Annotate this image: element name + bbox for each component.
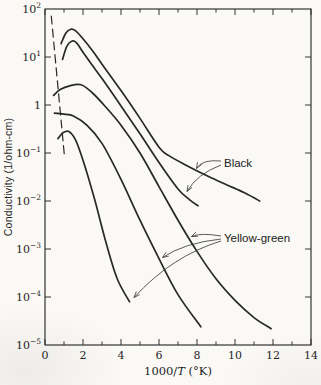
curve-yellow-green-steep <box>58 131 130 302</box>
x-tick-label: 2 <box>80 349 87 362</box>
x-tick-label: 10 <box>228 349 242 362</box>
x-tick-label: 6 <box>156 349 163 362</box>
data-curves <box>51 16 271 329</box>
x-tick-label: 8 <box>194 349 201 362</box>
scanned-figure-page: 02468101214102101110−110−210−310−410−510… <box>0 0 321 385</box>
annotation-black: Black <box>187 157 252 192</box>
curve-black-upper <box>61 29 260 201</box>
x-axis-tick-labels: 02468101214 <box>42 349 319 362</box>
curve-black-lower <box>63 41 199 206</box>
y-tick-label: 10−5 <box>16 337 41 352</box>
x-tick-label: 0 <box>42 349 49 362</box>
y-axis-tick-labels: 102101110−110−210−310−410−5 <box>16 1 41 352</box>
y-tick-label: 1 <box>34 99 41 112</box>
y-tick-label: 10−4 <box>16 289 41 304</box>
x-tick-label: 12 <box>266 349 280 362</box>
y-tick-label: 10−2 <box>16 193 41 208</box>
x-tick-label: 14 <box>304 349 318 362</box>
y-tick-label: 10−1 <box>16 145 41 160</box>
x-axis-title: 1000/T (°K) <box>144 364 212 378</box>
curve-dashed-reference <box>51 16 64 158</box>
y-tick-label: 10−3 <box>16 241 41 256</box>
y-tick-label: 102 <box>22 1 41 16</box>
curve-yellow-green-upper <box>54 84 272 328</box>
x-tick-label: 4 <box>118 349 125 362</box>
y-axis-title: Conductivity (1/ohm-cm) <box>2 118 14 236</box>
y-tick-label: 101 <box>22 49 41 64</box>
annotation-black-label: Black <box>224 157 252 169</box>
conductivity-vs-inverse-temperature-chart: 02468101214102101110−110−210−310−410−510… <box>0 0 321 385</box>
annotation-yellow-green: Yellow-green <box>134 232 290 298</box>
annotation-yellow-green-label: Yellow-green <box>224 232 290 244</box>
